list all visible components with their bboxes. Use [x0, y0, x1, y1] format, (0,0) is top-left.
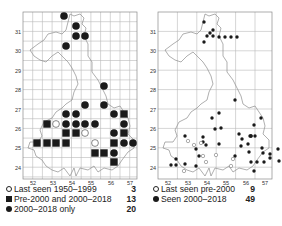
svg-text:30: 30 — [15, 48, 21, 54]
left-map-grid — [23, 12, 137, 179]
svg-text:31: 31 — [150, 29, 156, 35]
svg-text:29: 29 — [15, 68, 21, 74]
legend-count: 20 — [126, 204, 136, 214]
legend-label: Seen 2000–2018 — [161, 194, 245, 204]
svg-text:29: 29 — [150, 68, 156, 74]
legend-count: 9 — [245, 184, 255, 194]
svg-text:31: 31 — [15, 29, 21, 35]
svg-text:27: 27 — [15, 107, 21, 113]
svg-text:25: 25 — [15, 145, 21, 151]
open-circle-icon — [4, 186, 14, 192]
legend-label: Last seen pre-2000 — [161, 184, 245, 194]
legend-item-filled-circle: Seen 2000–2018 49 — [151, 194, 255, 204]
svg-text:24: 24 — [15, 165, 21, 171]
legend-item-filled-circle: 2000–2018 only 20 — [4, 204, 136, 214]
legend-count: 49 — [245, 194, 255, 204]
filled-square-icon — [4, 196, 14, 202]
filled-circle-icon — [4, 206, 14, 212]
svg-text:26: 26 — [150, 126, 156, 132]
legend-label: Pre-2000 and 2000–2018 — [14, 194, 126, 204]
filled-circle-icon — [151, 196, 161, 202]
svg-text:57: 57 — [262, 180, 268, 186]
legend-label: 2000–2018 only — [14, 204, 126, 214]
svg-text:30: 30 — [150, 48, 156, 54]
open-circle-icon — [151, 186, 161, 192]
svg-text:24: 24 — [150, 165, 156, 171]
right-legend: Last seen pre-2000 9 Seen 2000–2018 49 — [151, 184, 255, 204]
svg-text:28: 28 — [150, 87, 156, 93]
left-legend: Last seen 1950–1999 3 Pre-2000 and 2000–… — [4, 184, 136, 215]
legend-item-open-circle: Last seen pre-2000 9 — [151, 184, 255, 194]
legend-count: 13 — [126, 194, 136, 204]
legend-item-filled-square: Pre-2000 and 2000–2018 13 — [4, 194, 136, 204]
svg-text:27: 27 — [150, 107, 156, 113]
svg-text:25: 25 — [150, 145, 156, 151]
right-map-markers — [169, 20, 280, 172]
left-map-markers — [33, 12, 137, 166]
svg-text:28: 28 — [15, 87, 21, 93]
legend-item-open-circle: Last seen 1950–1999 3 — [4, 184, 136, 194]
legend-count: 3 — [126, 184, 136, 194]
svg-text:26: 26 — [15, 126, 21, 132]
legend-label: Last seen 1950–1999 — [14, 184, 126, 194]
